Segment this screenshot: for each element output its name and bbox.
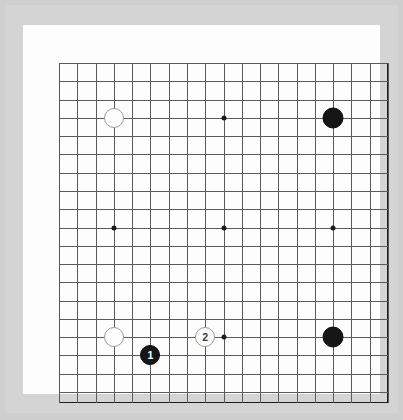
grid-line-horizontal-5	[59, 136, 388, 137]
grid-line-horizontal-9	[59, 209, 388, 210]
grid-line-horizontal-6	[59, 154, 388, 155]
grid-line-horizontal-14	[59, 301, 388, 302]
stone-black-move-1-label: 1	[147, 350, 153, 361]
stone-white-bottom-left[interactable]	[104, 327, 124, 347]
grid-line-horizontal-7	[59, 173, 388, 174]
stone-black-move-1[interactable]: 1	[140, 345, 160, 365]
grid-line-horizontal-1	[59, 63, 388, 64]
grid-line-horizontal-12	[59, 264, 388, 265]
star-point-top-center	[221, 115, 226, 120]
grid-line-horizontal-18	[59, 374, 388, 375]
grid-line-vertical-13	[278, 63, 279, 403]
grid-line-vertical-19	[388, 63, 389, 403]
grid-line-horizontal-11	[59, 246, 388, 247]
grid-line-vertical-10	[224, 63, 225, 403]
grid-line-horizontal-15	[59, 319, 388, 320]
star-point-bottom-center	[221, 335, 226, 340]
grid-line-vertical-8	[187, 63, 188, 403]
grid-line-horizontal-3	[59, 100, 388, 101]
grid-line-vertical-5	[132, 63, 133, 403]
grid-line-vertical-1	[59, 63, 60, 403]
stone-white-top-left[interactable]	[104, 108, 124, 128]
grid-line-horizontal-2	[59, 81, 388, 82]
grid-line-horizontal-17	[59, 355, 388, 356]
grid-line-vertical-12	[260, 63, 261, 403]
grid-line-horizontal-8	[59, 191, 388, 192]
grid-line-horizontal-13	[59, 282, 388, 283]
grid-line-vertical-11	[242, 63, 243, 403]
go-grid[interactable]: 12	[59, 63, 388, 403]
grid-line-vertical-15	[315, 63, 316, 403]
board-surface[interactable]: 12	[23, 25, 380, 394]
star-point-tengen	[221, 225, 226, 230]
grid-line-vertical-9	[205, 63, 206, 403]
grid-line-vertical-14	[297, 63, 298, 403]
grid-line-vertical-7	[169, 63, 170, 403]
board-outer-frame: 12	[0, 0, 403, 420]
star-point-middle-right	[331, 225, 336, 230]
stone-black-top-right[interactable]	[323, 107, 344, 128]
star-point-middle-left	[111, 225, 116, 230]
grid-line-vertical-3	[96, 63, 97, 403]
grid-line-vertical-2	[77, 63, 78, 403]
stone-white-move-2[interactable]: 2	[195, 327, 215, 347]
grid-line-horizontal-19	[59, 392, 388, 393]
stone-black-bottom-right[interactable]	[323, 327, 344, 348]
grid-line-vertical-18	[370, 63, 371, 403]
grid-line-vertical-17	[351, 63, 352, 403]
stone-white-move-2-label: 2	[202, 332, 208, 343]
